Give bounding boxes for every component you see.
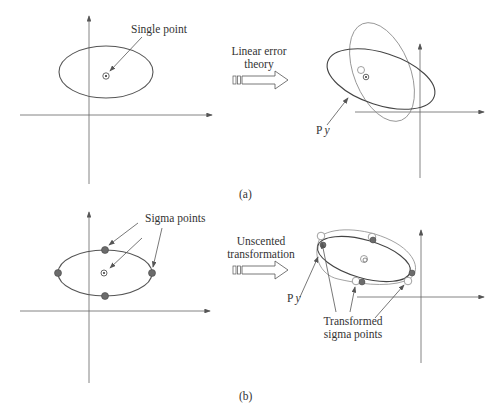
linear-error-theory-label: Linear error theory xyxy=(226,45,292,71)
caption-a: (a) xyxy=(239,188,252,201)
sigma-point-right xyxy=(149,270,156,277)
sigma-point-top xyxy=(102,247,109,254)
sigma-points-label: Sigma points xyxy=(145,212,205,225)
ut-sigma-point xyxy=(409,270,415,276)
panel-a-output-plot xyxy=(320,13,484,178)
sigma-arrow-1 xyxy=(109,223,138,245)
py-arrow-b xyxy=(300,257,318,297)
py-suffix: y xyxy=(324,124,329,136)
caption-b: (b) xyxy=(239,390,252,403)
sigma-point-left xyxy=(55,270,62,277)
transformed-label-line1: Transformed xyxy=(313,315,393,328)
sigma-arrow-3 xyxy=(153,228,162,267)
transformed-sigma-points-label: Transformed sigma points xyxy=(313,315,393,341)
transformed-arrow-2 xyxy=(350,287,355,312)
py-suffix: y xyxy=(295,292,300,304)
py-arrow-a xyxy=(327,98,348,125)
covariance-ellipse xyxy=(59,46,153,98)
transform-label-line2: transformation xyxy=(222,248,300,261)
single-point-label: Single point xyxy=(131,23,187,36)
transformed-sigma-point xyxy=(352,277,360,285)
transform-arrow-a xyxy=(233,71,288,89)
transform-label-line1: Unscented xyxy=(222,235,300,248)
transform-arrow-b xyxy=(233,261,288,279)
transformed-sigma-point xyxy=(317,232,325,240)
ut-sigma-point xyxy=(359,279,365,285)
transform-label-line1: Linear error xyxy=(226,45,292,58)
py-label-b: Py xyxy=(287,292,301,305)
py-prefix: P xyxy=(287,292,293,304)
panel-b-output-plot xyxy=(300,228,484,363)
single-point-arrow xyxy=(110,37,142,71)
ut-sigma-point xyxy=(370,237,376,243)
true-mean-point xyxy=(358,67,365,74)
panel-b-input-plot xyxy=(20,212,210,383)
true-distribution-ellipse xyxy=(337,13,428,130)
linearized-covariance-ellipse xyxy=(320,37,443,121)
transform-label-line2: theory xyxy=(226,58,292,71)
unscented-transformation-label: Unscented transformation xyxy=(222,235,300,261)
py-label-a: Py xyxy=(316,124,330,137)
sigma-arrow-2 xyxy=(110,238,142,268)
py-prefix: P xyxy=(316,124,322,136)
sigma-point-bottom xyxy=(102,293,109,300)
transformed-label-line2: sigma points xyxy=(313,328,393,341)
transformed-arrow-3 xyxy=(375,285,404,318)
panel-a-input-plot xyxy=(20,16,212,184)
ukf-diagram: Single point Linear error theory Py (a) … xyxy=(0,0,495,413)
transformed-sigma-point xyxy=(404,277,412,285)
